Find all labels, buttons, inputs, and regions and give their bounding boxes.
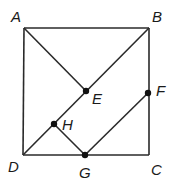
point-g-dot xyxy=(82,152,88,158)
label-d: D xyxy=(8,158,19,175)
label-a: A xyxy=(10,8,21,25)
label-b: B xyxy=(152,8,162,25)
point-e-dot xyxy=(83,88,89,94)
segment-ae xyxy=(24,28,86,91)
label-e: E xyxy=(92,90,103,107)
label-g: G xyxy=(79,164,91,181)
geometry-diagram: A B C D E F G H xyxy=(0,0,179,189)
point-f-dot xyxy=(145,90,151,96)
segment-da xyxy=(23,28,24,155)
label-h: H xyxy=(62,116,73,133)
label-f: F xyxy=(156,82,166,99)
label-c: C xyxy=(151,161,162,178)
point-h-dot xyxy=(51,121,57,127)
